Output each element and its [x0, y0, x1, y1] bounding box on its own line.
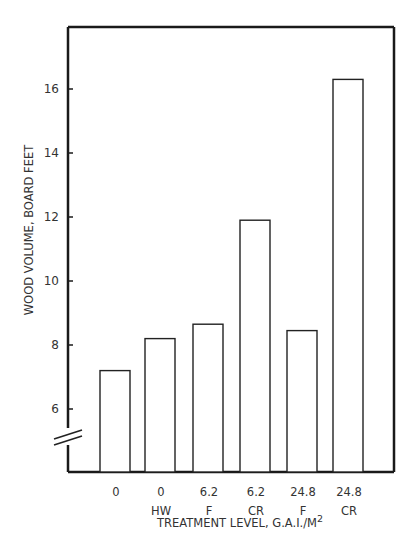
x-category-label: 6.2: [200, 485, 218, 499]
y-axis-title: WOOD VOLUME, BOARD FEET: [22, 144, 36, 316]
x-category-label: 6.2: [247, 485, 265, 499]
y-tick-label: 14: [44, 146, 59, 160]
bar: [193, 324, 223, 472]
x-category-label: 24.8: [336, 485, 362, 499]
bar: [287, 331, 317, 472]
axis-break-icon: [54, 430, 82, 445]
y-tick-label: 12: [44, 210, 59, 224]
y-tick-label: 10: [44, 274, 59, 288]
bar-chart: 6810121416 00HW6.2F6.2CR24.8F24.8CR WOOD…: [0, 0, 414, 557]
x-axis-title: TREATMENT LEVEL, G.A.I./M2: [156, 513, 323, 530]
x-category-label: 24.8: [290, 485, 316, 499]
y-tick-label: 16: [44, 82, 59, 96]
y-tick-label: 8: [51, 338, 59, 352]
x-category-sublabel: CR: [341, 504, 357, 518]
bars: [100, 79, 363, 472]
y-tick-label: 6: [51, 402, 59, 416]
bar: [145, 339, 175, 472]
x-category-label: 0: [112, 485, 119, 499]
x-axis-category-labels: 00HW6.2F6.2CR24.8F24.8CR: [112, 485, 361, 518]
x-category-label: 0: [157, 485, 164, 499]
bar: [333, 79, 363, 472]
bar: [100, 371, 130, 472]
bar: [240, 220, 270, 472]
